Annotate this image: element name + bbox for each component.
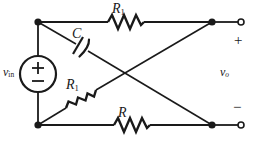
node-top-left xyxy=(34,18,41,25)
label-r1-top: R1 xyxy=(112,2,125,16)
label-r-bottom: R xyxy=(118,106,127,120)
label-output-plus: + xyxy=(234,33,242,48)
circuit-diagram: R1 C R1 R vin vo + − xyxy=(0,0,255,146)
circuit-schematic-svg xyxy=(0,0,255,146)
label-capacitor-c: C xyxy=(72,27,81,41)
voltage-source-symbol xyxy=(20,56,56,92)
resistor-r1-top-symbol xyxy=(108,15,144,29)
node-top-right xyxy=(208,18,215,25)
label-source-vin: vin xyxy=(3,66,14,79)
label-output-vo: vo xyxy=(220,66,229,79)
resistor-r-bottom-symbol xyxy=(114,118,150,132)
resistor-r1-diagonal-symbol xyxy=(66,90,96,108)
label-output-minus: − xyxy=(233,100,241,115)
output-terminal-negative-icon xyxy=(238,122,244,128)
output-terminal-positive-icon xyxy=(238,19,244,25)
label-r1-diagonal: R1 xyxy=(66,78,79,92)
node-bottom-right xyxy=(208,121,215,128)
node-bottom-left xyxy=(34,121,41,128)
